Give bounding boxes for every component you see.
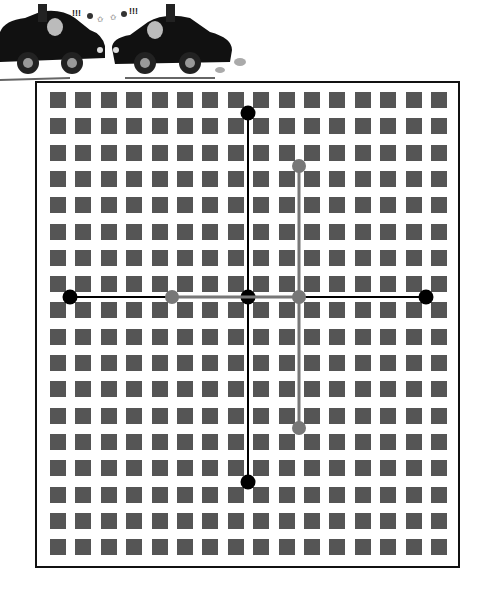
gray-cross-dot — [292, 159, 306, 173]
gray-cross-dot — [165, 290, 179, 304]
cross-overlay — [0, 0, 483, 598]
gray-cross-dot — [292, 290, 306, 304]
gray-cross-dot — [292, 421, 306, 435]
black-cross-dot — [63, 290, 78, 305]
black-cross-dot — [241, 475, 256, 490]
black-cross-dot — [241, 106, 256, 121]
black-cross-dot — [419, 290, 434, 305]
